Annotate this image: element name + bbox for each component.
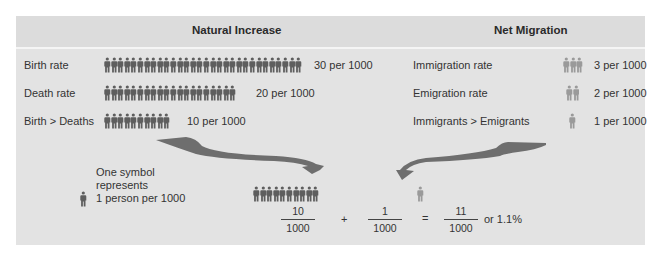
person-icon xyxy=(117,113,124,129)
immigration-rate-label: Immigration rate xyxy=(413,59,492,71)
person-icon xyxy=(104,57,111,73)
person-icon xyxy=(104,113,111,129)
person-icon xyxy=(576,57,583,73)
person-icon xyxy=(150,57,157,73)
person-icon xyxy=(111,57,118,73)
immigration-rate-value: 3 per 1000 xyxy=(594,59,647,71)
person-icon xyxy=(229,57,236,73)
birth-rate-label: Birth rate xyxy=(24,59,69,71)
person-icon xyxy=(210,57,217,73)
person-icon xyxy=(563,57,570,73)
person-icon xyxy=(293,186,300,202)
person-icon xyxy=(295,57,302,73)
equation-natural-figures xyxy=(253,186,319,202)
person-icon xyxy=(203,85,210,101)
legend-person-icon xyxy=(80,191,87,207)
person-icon xyxy=(137,113,144,129)
death-rate-figures xyxy=(104,85,236,101)
person-icon xyxy=(253,186,260,202)
person-icon xyxy=(130,57,137,73)
person-icon xyxy=(236,57,243,73)
person-icon xyxy=(130,85,137,101)
fraction-natural: 10 1000 xyxy=(281,205,315,234)
net-migration-label: Immigrants > Emigrants xyxy=(413,115,529,127)
person-icon xyxy=(262,57,269,73)
legend-line-3: 1 person per 1000 xyxy=(96,192,185,204)
person-icon xyxy=(144,113,151,129)
person-icon xyxy=(566,85,573,101)
birth-minus-deaths-value: 10 per 1000 xyxy=(187,115,246,127)
person-icon xyxy=(130,113,137,129)
person-icon xyxy=(183,85,190,101)
person-icon xyxy=(190,57,197,73)
person-icon xyxy=(196,85,203,101)
natural-increase-heading: Natural Increase xyxy=(192,24,282,36)
fraction-result: 11 1000 xyxy=(444,205,478,234)
header-band: Natural Increase Net Migration xyxy=(16,16,645,49)
person-icon xyxy=(111,85,118,101)
person-icon xyxy=(573,85,580,101)
person-icon xyxy=(80,191,87,207)
person-icon xyxy=(117,57,124,73)
person-icon xyxy=(275,57,282,73)
person-icon xyxy=(137,57,144,73)
person-icon xyxy=(117,85,124,101)
person-icon xyxy=(312,186,319,202)
person-icon xyxy=(570,57,577,73)
legend-line-2: represents xyxy=(96,179,148,191)
net-migration-arrow-icon xyxy=(396,140,546,184)
equation-migration-figure xyxy=(417,186,424,202)
person-icon xyxy=(124,57,131,73)
emigration-rate-value: 2 per 1000 xyxy=(594,87,647,99)
immigration-rate-figures xyxy=(563,57,583,73)
person-icon xyxy=(183,57,190,73)
person-icon xyxy=(299,186,306,202)
plus-sign: + xyxy=(341,213,347,225)
person-icon xyxy=(260,186,267,202)
person-icon xyxy=(229,85,236,101)
birth-rate-value: 30 per 1000 xyxy=(314,59,373,71)
person-icon xyxy=(190,85,197,101)
person-icon xyxy=(150,113,157,129)
person-icon xyxy=(157,113,164,129)
death-rate-value: 20 per 1000 xyxy=(256,87,315,99)
person-icon xyxy=(286,186,293,202)
person-icon xyxy=(203,57,210,73)
person-icon xyxy=(111,113,118,129)
person-icon xyxy=(216,85,223,101)
person-icon xyxy=(163,57,170,73)
emigration-rate-figures xyxy=(566,85,579,101)
person-icon xyxy=(273,186,280,202)
person-icon xyxy=(144,57,151,73)
net-migration-value: 1 per 1000 xyxy=(594,115,647,127)
legend-line-1: One symbol xyxy=(96,166,155,178)
person-icon xyxy=(177,57,184,73)
fraction-migration: 1 1000 xyxy=(368,205,402,234)
birth-rate-figures xyxy=(104,57,302,73)
population-growth-diagram: Natural Increase Net Migration Birth rat… xyxy=(16,16,645,245)
emigration-rate-label: Emigration rate xyxy=(413,87,488,99)
person-icon xyxy=(163,85,170,101)
person-icon xyxy=(104,85,111,101)
person-icon xyxy=(157,57,164,73)
person-icon xyxy=(266,186,273,202)
person-icon xyxy=(150,85,157,101)
equals-sign: = xyxy=(422,212,428,224)
natural-increase-arrow-icon xyxy=(156,136,346,184)
person-icon xyxy=(210,85,217,101)
person-icon xyxy=(417,186,424,202)
person-icon xyxy=(170,57,177,73)
person-icon xyxy=(223,85,230,101)
person-icon xyxy=(124,85,131,101)
person-icon xyxy=(144,85,151,101)
person-icon xyxy=(177,85,184,101)
person-icon xyxy=(249,57,256,73)
net-migration-heading: Net Migration xyxy=(494,24,567,36)
person-icon xyxy=(269,57,276,73)
person-icon xyxy=(256,57,263,73)
person-icon xyxy=(306,186,313,202)
person-icon xyxy=(170,85,177,101)
person-icon xyxy=(124,113,131,129)
person-icon xyxy=(282,57,289,73)
person-icon xyxy=(216,57,223,73)
